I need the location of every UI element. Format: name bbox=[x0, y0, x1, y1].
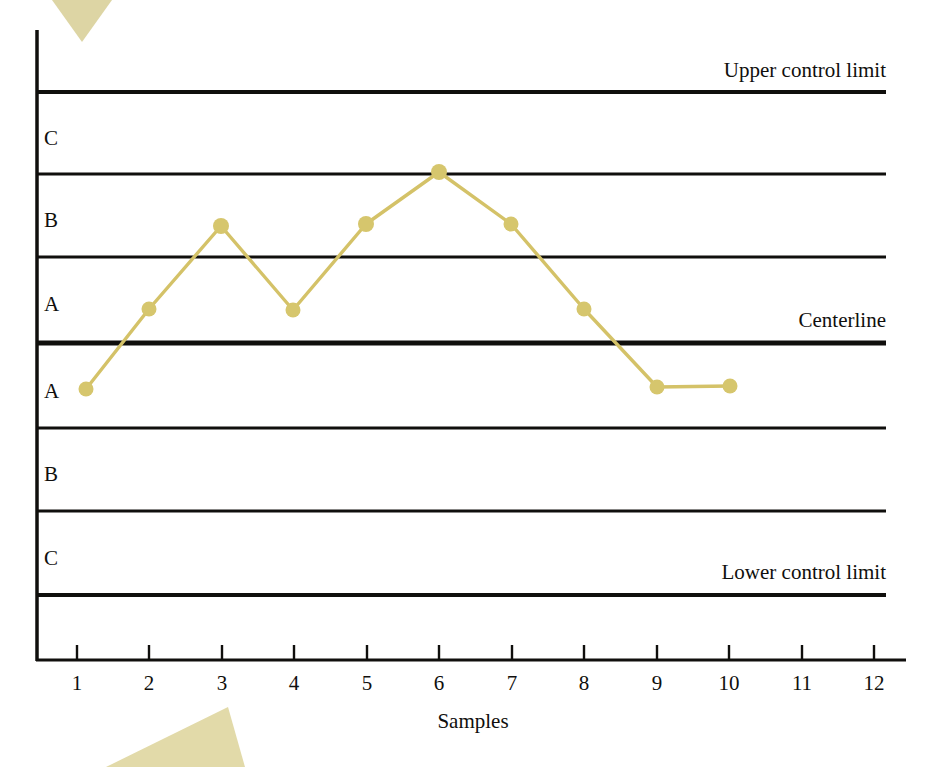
decorative-triangle-top bbox=[52, 0, 112, 42]
data-series-line bbox=[86, 172, 730, 389]
x-tick-label-8: 8 bbox=[579, 673, 590, 694]
data-point-5 bbox=[358, 216, 374, 232]
x-tick-label-3: 3 bbox=[217, 673, 228, 694]
data-point-markers bbox=[79, 164, 738, 397]
zone-label-upper-c: C bbox=[44, 128, 58, 149]
data-point-1 bbox=[79, 382, 94, 397]
lower-control-limit-label: Lower control limit bbox=[436, 562, 886, 583]
x-tick-label-11: 11 bbox=[792, 673, 812, 694]
x-tick-label-4: 4 bbox=[289, 673, 300, 694]
control-chart-canvas bbox=[0, 0, 945, 767]
x-tick-label-12: 12 bbox=[864, 673, 885, 694]
zone-label-upper-a: A bbox=[44, 294, 59, 315]
x-tick-label-7: 7 bbox=[507, 673, 518, 694]
x-tick-label-1: 1 bbox=[72, 673, 83, 694]
data-point-2 bbox=[142, 302, 157, 317]
decorative-triangle-bottom bbox=[106, 707, 245, 767]
x-axis-title: Samples bbox=[437, 711, 508, 732]
x-tick-label-2: 2 bbox=[144, 673, 155, 694]
data-point-6 bbox=[431, 164, 447, 180]
upper-control-limit-label: Upper control limit bbox=[436, 60, 886, 81]
data-point-4 bbox=[286, 303, 301, 318]
x-tick-label-9: 9 bbox=[652, 673, 663, 694]
zone-label-upper-b: B bbox=[44, 210, 58, 231]
data-point-7 bbox=[504, 217, 519, 232]
control-chart: C B A A B C Upper control limit Centerli… bbox=[0, 0, 945, 767]
zone-label-lower-c: C bbox=[44, 548, 58, 569]
zone-label-lower-a: A bbox=[44, 381, 59, 402]
x-tick-label-6: 6 bbox=[434, 673, 445, 694]
data-point-10 bbox=[723, 379, 738, 394]
x-tick-label-5: 5 bbox=[362, 673, 373, 694]
x-axis-ticks bbox=[77, 645, 874, 660]
data-point-3 bbox=[213, 218, 229, 234]
data-point-9 bbox=[650, 380, 665, 395]
x-tick-label-10: 10 bbox=[719, 673, 740, 694]
zone-label-lower-b: B bbox=[44, 464, 58, 485]
centerline-label: Centerline bbox=[436, 310, 886, 331]
